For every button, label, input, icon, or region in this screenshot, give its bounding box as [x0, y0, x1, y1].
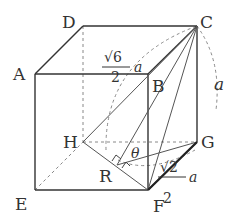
label-CR-var: a — [134, 59, 142, 75]
cube-diagram: A B C D E F G H R √6 2 a a θ √2 2 a — [0, 0, 236, 218]
label-RG-den: 2 — [163, 190, 172, 206]
right-angle-marks — [112, 155, 130, 168]
label-RG-num: √2 — [160, 159, 178, 175]
label-E: E — [15, 194, 27, 214]
label-D: D — [62, 12, 76, 32]
label-RG-var: a — [189, 169, 197, 185]
label-H: H — [63, 132, 78, 152]
label-theta: θ — [131, 145, 140, 161]
label-B: B — [152, 76, 165, 96]
label-R: R — [99, 166, 113, 186]
label-edge-a: a — [214, 74, 224, 94]
label-CR-den: 2 — [111, 69, 120, 85]
label-A: A — [12, 64, 26, 84]
label-G: G — [201, 132, 215, 152]
label-CR-num: √6 — [104, 49, 122, 65]
label-C: C — [200, 12, 213, 32]
